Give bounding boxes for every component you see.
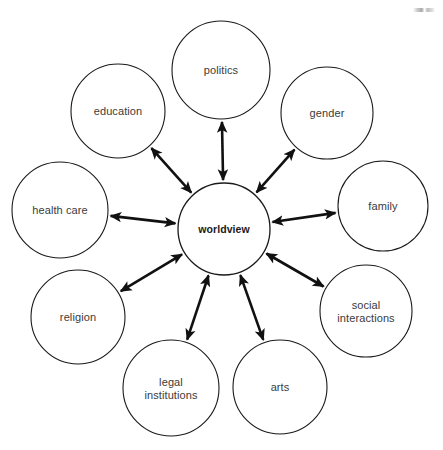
node-circle-legal-institutions[interactable]	[123, 340, 219, 436]
corner-scan-artifact	[413, 8, 435, 12]
connector-worldview-to-gender	[257, 150, 295, 193]
connector-worldview-to-legal-institutions	[187, 275, 208, 339]
connector-worldview-to-education	[151, 148, 191, 192]
connector-worldview-to-health-care	[111, 216, 176, 223]
node-circle-politics[interactable]	[172, 21, 270, 119]
node-circle-social-interactions[interactable]	[320, 265, 412, 357]
node-circle-education[interactable]	[71, 64, 165, 158]
node-circle-worldview[interactable]	[178, 183, 270, 275]
node-circle-health-care[interactable]	[12, 162, 108, 258]
connector-worldview-to-politics	[222, 122, 223, 180]
node-circle-gender[interactable]	[281, 67, 373, 159]
circle-layer	[12, 21, 428, 436]
connector-worldview-to-religion	[121, 254, 182, 291]
node-circle-religion[interactable]	[31, 270, 125, 364]
worldview-concept-map: politicsgenderfamilysocial interactionsa…	[0, 0, 443, 450]
node-circle-family[interactable]	[338, 161, 428, 251]
node-circle-arts[interactable]	[233, 340, 327, 434]
diagram-canvas	[0, 0, 443, 450]
connector-worldview-to-family	[273, 213, 336, 222]
connector-worldview-to-arts	[240, 275, 263, 340]
connector-worldview-to-social-interactions	[266, 254, 323, 287]
